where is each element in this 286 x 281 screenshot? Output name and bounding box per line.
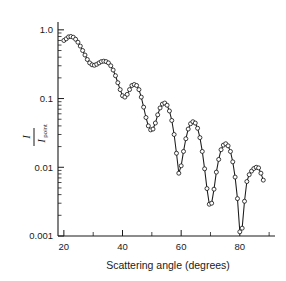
- data-point-marker: [167, 109, 171, 113]
- data-point-marker: [226, 144, 230, 148]
- data-point-marker: [151, 127, 155, 131]
- data-point-marker: [137, 88, 141, 92]
- data-point-marker: [184, 137, 188, 141]
- data-point-marker: [76, 40, 80, 44]
- data-point-marker: [259, 171, 263, 175]
- y-tick-label: 0.01: [35, 162, 54, 173]
- data-point-marker: [135, 83, 139, 87]
- data-point-marker: [156, 113, 160, 117]
- data-point-marker: [243, 199, 247, 203]
- data-point-marker: [196, 126, 200, 130]
- data-point-marker: [83, 53, 87, 57]
- data-point-marker: [78, 44, 82, 48]
- x-tick-label-group: 20406080: [59, 241, 246, 252]
- data-point-marker: [153, 121, 157, 125]
- data-point-marker: [158, 106, 162, 110]
- data-point-marker: [165, 103, 169, 107]
- data-point-marker: [81, 49, 85, 53]
- y-axis-denominator-subscript: point: [41, 124, 48, 138]
- data-point-marker: [125, 92, 129, 96]
- data-point-marker: [233, 175, 237, 179]
- x-tick-label: 20: [59, 241, 70, 252]
- data-point-marker: [172, 132, 176, 136]
- data-point-marker: [116, 81, 120, 85]
- data-point-marker: [128, 88, 132, 92]
- scattering-intensity-chart: 20406080 1.00.10.010.001 I I point Scatt…: [0, 0, 286, 281]
- data-point-marker: [113, 74, 117, 78]
- data-point-marker: [174, 151, 178, 155]
- data-point-marker: [118, 88, 122, 92]
- data-point-marker: [228, 149, 232, 153]
- data-point-marker: [111, 68, 115, 72]
- x-tick-label: 40: [117, 241, 128, 252]
- data-point-marker: [261, 178, 265, 182]
- data-point-marker: [231, 160, 235, 164]
- x-axis: 20406080: [58, 230, 275, 252]
- y-tick-label: 1.0: [40, 24, 53, 35]
- data-point-marker: [177, 171, 181, 175]
- data-point-marker: [219, 148, 223, 152]
- data-point-markers: [62, 34, 265, 233]
- data-point-marker: [212, 187, 216, 191]
- y-axis-denominator: I: [35, 138, 47, 144]
- data-point-marker: [203, 167, 207, 171]
- y-major-tick-group: [58, 30, 64, 236]
- data-point-marker: [193, 121, 197, 125]
- x-tick-label: 80: [235, 241, 246, 252]
- data-point-marker: [186, 127, 190, 131]
- y-tick-label: 0.1: [40, 93, 53, 104]
- x-axis-title: Scattering angle (degrees): [106, 259, 230, 271]
- data-point-marker: [146, 124, 150, 128]
- data-point-marker: [139, 95, 143, 99]
- data-point-marker: [240, 226, 244, 230]
- chart-canvas: 20406080 1.00.10.010.001 I I point Scatt…: [0, 0, 286, 281]
- data-point-marker: [179, 164, 183, 168]
- data-point-marker: [182, 149, 186, 153]
- data-point-marker: [245, 180, 249, 184]
- data-point-marker: [200, 149, 204, 153]
- data-point-marker: [214, 170, 218, 174]
- data-point-marker: [198, 136, 202, 140]
- data-point-marker: [257, 166, 261, 170]
- data-point-marker: [210, 201, 214, 205]
- data-point-marker: [238, 230, 242, 234]
- data-point-marker: [170, 118, 174, 122]
- x-tick-label: 60: [176, 241, 187, 252]
- data-point-marker: [217, 157, 221, 161]
- data-point-marker: [235, 197, 239, 201]
- y-tick-label: 0.001: [29, 230, 53, 241]
- data-point-marker: [144, 116, 148, 120]
- y-axis-numerator: I: [20, 134, 32, 140]
- data-point-marker: [142, 105, 146, 109]
- data-point-marker: [109, 64, 113, 68]
- y-axis-title: I I point: [20, 124, 48, 146]
- data-series: [62, 34, 265, 233]
- data-point-marker: [205, 187, 209, 191]
